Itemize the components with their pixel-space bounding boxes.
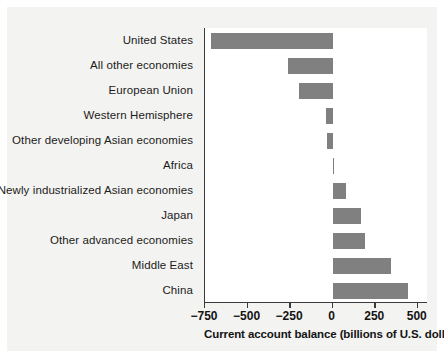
bar: [333, 233, 365, 249]
x-tick-label: 250: [364, 309, 384, 323]
figure: United StatesAll other economiesEuropean…: [0, 0, 444, 362]
bar-row: [205, 78, 427, 103]
bar: [299, 83, 332, 99]
bar-row: [205, 203, 427, 228]
bar-row: [205, 28, 427, 53]
bar-series: [205, 28, 427, 302]
bar: [333, 208, 361, 224]
x-tick: [417, 303, 418, 308]
x-tick-label: −750: [190, 309, 217, 323]
x-tick-label: 500: [407, 309, 427, 323]
category-label: All other economies: [90, 53, 193, 78]
x-tick-label: 0: [328, 309, 335, 323]
category-label: Africa: [163, 153, 193, 178]
category-label: European Union: [108, 78, 193, 103]
bar-row: [205, 153, 427, 178]
plot-area: [204, 28, 427, 303]
bar-row: [205, 128, 427, 153]
bar: [211, 33, 333, 49]
bar: [333, 158, 335, 174]
bar: [326, 108, 333, 124]
bar-row: [205, 53, 427, 78]
bar-row: [205, 103, 427, 128]
bar: [327, 133, 333, 149]
category-label: Newly industrialized Asian economies: [0, 178, 193, 203]
bar: [333, 258, 392, 274]
x-axis-title: Current account balance (billions of U.S…: [204, 328, 440, 340]
x-tick: [332, 303, 333, 308]
bar-row: [205, 178, 427, 203]
category-label: United States: [123, 28, 193, 53]
bar-row: [205, 278, 427, 303]
bar-row: [205, 253, 427, 278]
bar-chart: United StatesAll other economiesEuropean…: [0, 0, 444, 362]
x-tick: [204, 303, 205, 308]
category-label: China: [162, 278, 193, 303]
x-tick-label: −500: [233, 309, 260, 323]
bar: [333, 183, 347, 199]
category-label: Japan: [161, 203, 193, 228]
x-tick-label: −250: [276, 309, 303, 323]
x-tick: [247, 303, 248, 308]
bar: [333, 283, 409, 299]
x-tick: [289, 303, 290, 308]
x-tick: [374, 303, 375, 308]
category-axis-labels: United StatesAll other economiesEuropean…: [0, 28, 199, 303]
bar: [288, 58, 332, 74]
category-label: Western Hemisphere: [83, 103, 193, 128]
category-label: Other developing Asian economies: [12, 128, 193, 153]
category-label: Middle East: [132, 253, 193, 278]
bar-row: [205, 228, 427, 253]
category-label: Other advanced economies: [50, 228, 193, 253]
